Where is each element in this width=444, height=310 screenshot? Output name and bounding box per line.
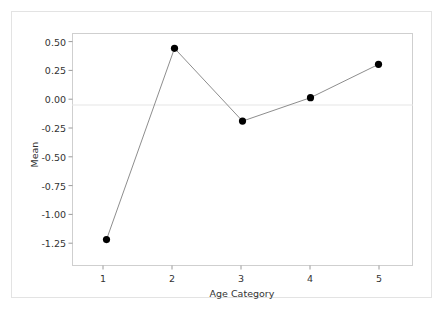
x-tick-label: 1: [100, 273, 106, 284]
data-point-marker[interactable]: [239, 118, 246, 125]
y-tick-label: -0.25: [41, 123, 66, 134]
y-tick-label: 0.50: [45, 36, 66, 47]
y-axis-title: Mean: [29, 128, 40, 168]
x-axis-title: Age Category: [172, 288, 312, 299]
data-point-marker[interactable]: [171, 45, 178, 52]
data-point-marker[interactable]: [307, 94, 314, 101]
x-tick-label: 3: [238, 273, 244, 284]
y-tick-label: -1.25: [41, 238, 66, 249]
x-tick-label: 5: [376, 273, 382, 284]
y-tick-label: 0.00: [45, 94, 66, 105]
x-tick-label: 4: [307, 273, 313, 284]
line-chart-plot: [0, 0, 444, 310]
y-tick-label: -1.00: [41, 209, 66, 220]
plot-frame: [73, 34, 413, 266]
y-tick-label: -0.50: [41, 151, 66, 162]
chart-figure: 0.50 0.25 0.00 -0.25 -0.50 -0.75 -1.00 -…: [0, 0, 444, 310]
y-axis-ticks: [69, 42, 73, 244]
data-point-marker[interactable]: [103, 236, 110, 243]
y-tick-label: 0.25: [45, 65, 66, 76]
x-tick-label: 2: [169, 273, 175, 284]
x-axis-ticks: [103, 266, 379, 270]
y-tick-label: -0.75: [41, 180, 66, 191]
data-point-marker[interactable]: [375, 61, 382, 68]
